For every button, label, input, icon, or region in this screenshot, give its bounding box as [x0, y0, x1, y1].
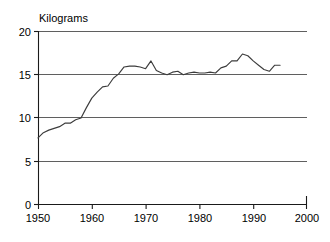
line-chart: Kilograms 20 15 10 5 0 — [0, 0, 330, 242]
chart-figure: Kilograms 20 15 10 5 0 — [0, 0, 330, 242]
axes — [38, 31, 307, 205]
x-tick-label-1970: 1970 — [134, 212, 158, 224]
y-tick-label-20: 20 — [19, 26, 31, 38]
x-tick-marks — [39, 205, 307, 209]
y-tick-labels: 20 15 10 5 0 — [19, 26, 31, 211]
gridlines — [38, 32, 307, 162]
x-tick-label-2000: 2000 — [295, 212, 319, 224]
x-tick-labels: 1950 1960 1970 1980 1990 2000 — [26, 212, 319, 224]
y-tick-label-5: 5 — [25, 156, 31, 168]
x-tick-label-1960: 1960 — [80, 212, 104, 224]
data-series-line — [38, 54, 280, 138]
y-tick-label-0: 0 — [25, 199, 31, 211]
y-tick-label-10: 10 — [19, 112, 31, 124]
x-tick-label-1980: 1980 — [188, 212, 212, 224]
y-axis-title: Kilograms — [39, 12, 88, 24]
y-tick-marks — [34, 32, 38, 205]
x-tick-label-1950: 1950 — [26, 212, 50, 224]
x-tick-label-1990: 1990 — [242, 212, 266, 224]
y-tick-label-15: 15 — [19, 69, 31, 81]
